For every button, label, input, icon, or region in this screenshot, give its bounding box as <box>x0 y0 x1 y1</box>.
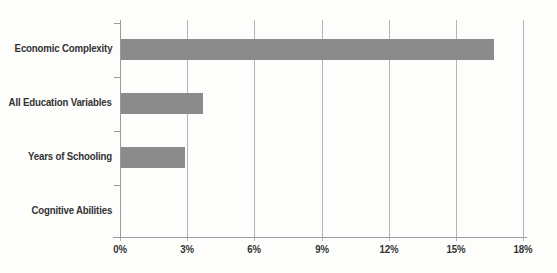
y-axis-tick <box>114 131 120 132</box>
x-tick-label-9: 9% <box>303 243 340 255</box>
category-label-all-education-variables: All Education Variables <box>9 96 112 108</box>
x-tick-label-0: 0% <box>102 243 139 255</box>
x-axis-line <box>113 237 527 238</box>
plot-area: Economic ComplexityAll Education Variabl… <box>0 0 557 273</box>
x-tick-label-15: 15% <box>437 243 474 255</box>
bar-chart-figure: Economic ComplexityAll Education Variabl… <box>0 0 557 273</box>
y-axis-tick <box>114 185 120 186</box>
bar-all-education-variables <box>121 93 203 114</box>
x-tick-label-18: 18% <box>505 243 542 255</box>
y-axis-tick <box>114 23 120 24</box>
gridline-18 <box>523 20 524 241</box>
y-axis-tick <box>114 77 120 78</box>
x-tick-label-12: 12% <box>370 243 407 255</box>
bar-economic-complexity <box>121 39 494 60</box>
x-tick-label-6: 6% <box>236 243 273 255</box>
x-tick-label-3: 3% <box>169 243 206 255</box>
category-label-years-of-schooling: Years of Schooling <box>28 150 112 162</box>
category-label-cognitive-abilities: Cognitive Abilities <box>31 204 112 216</box>
category-label-economic-complexity: Economic Complexity <box>14 42 112 54</box>
bar-years-of-schooling <box>121 147 185 168</box>
